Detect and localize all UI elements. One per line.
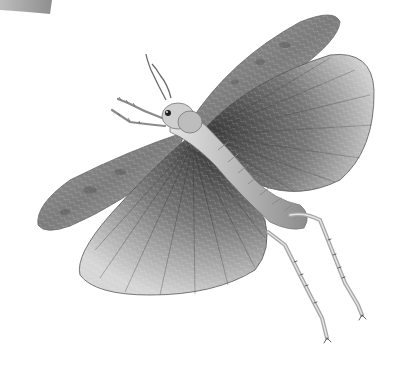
illustration-canvas: Grasshopper in flight, grayscale engravi…: [0, 0, 401, 375]
eye: [165, 110, 171, 116]
hind-legs: [268, 214, 366, 343]
front-legs: [112, 99, 165, 126]
wing-fragment-top-left: [0, 0, 52, 14]
grasshopper-illustration: [0, 0, 401, 375]
antennae: [146, 54, 171, 100]
head: [162, 103, 202, 133]
